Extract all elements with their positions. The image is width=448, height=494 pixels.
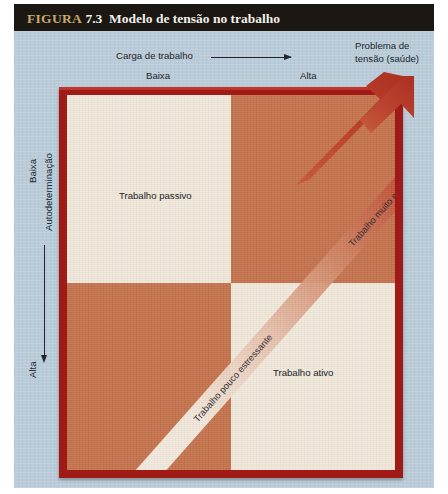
matrix-frame: Trabalho pouco estressante Trabalho muit… [59,87,403,478]
outcome-callout: Problema de tensão (saúde) [355,40,419,65]
figure-title: Modelo de tensão no trabalho [109,11,280,26]
y-axis-low-label: Baixa [27,159,38,183]
quadrant-top-left [67,95,231,283]
y-axis-arrow-icon [44,245,45,355]
figure-title-text: FIGURA 7.3 Modelo de tensão no trabalho [14,9,280,27]
figure-title-bar: FIGURA 7.3 Modelo de tensão no trabalho [14,4,434,31]
outcome-callout-line1: Problema de [355,40,419,53]
x-axis-low-label: Baixa [146,70,170,81]
quadrant-label-active: Trabalho ativo [273,367,333,378]
quadrant-top-right [231,95,395,283]
matrix-plot-area: Trabalho pouco estressante Trabalho muit… [67,95,395,470]
quadrant-bottom-left [67,283,231,471]
x-axis-arrow-icon [211,57,291,58]
quadrant-label-passive: Trabalho passivo [119,190,192,201]
y-axis-high-label: Alta [27,361,38,378]
figure-root: FIGURA 7.3 Modelo de tensão no trabalho … [0,0,448,494]
figure-number: 7.3 [85,11,102,26]
x-axis-title: Carga de trabalho [116,50,193,61]
x-axis-high-label: Alta [300,70,317,81]
figure-label: FIGURA [27,11,82,26]
outcome-callout-line2: tensão (saúde) [355,53,419,66]
y-axis-title: Autodeterminação [43,153,54,231]
